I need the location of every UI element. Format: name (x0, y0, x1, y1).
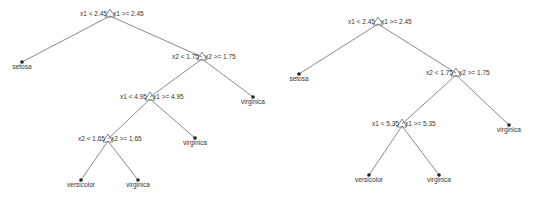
tree-edge (456, 75, 509, 125)
tree-edge (110, 16, 202, 57)
split-left-label: x2 < 1.75 (172, 53, 199, 60)
tree-edge (402, 126, 439, 175)
split-node: x1 < 4.95x1 >= 4.95 (120, 92, 184, 100)
tree-edge (369, 126, 402, 175)
tree-edge (108, 141, 138, 180)
tree-edge (108, 99, 150, 139)
tree-edge (81, 141, 108, 180)
split-node: x2 < 1.75x2 >= 1.75 (426, 68, 490, 76)
leaf-label: virginica (126, 181, 150, 189)
tree-edge (202, 59, 253, 97)
split-right-label: x1 >= 4.95 (153, 93, 184, 100)
tree-edge (378, 24, 456, 73)
leaf-node: versicolor (355, 173, 384, 183)
split-right-label: x2 >= 1.75 (459, 69, 490, 76)
right-tree-edges (299, 24, 509, 175)
tree-nodes: x1 < 2.45x1 >= 2.45setosax2 < 1.75x2 >= … (12, 9, 521, 189)
split-node: x1 < 5.35x1 >= 5.35 (372, 119, 436, 127)
split-node: x2 < 1.65x2 >= 1.65 (78, 134, 142, 142)
leaf-label: setosa (289, 75, 309, 82)
leaf-label: virginica (183, 139, 207, 147)
split-left-label: x2 < 1.75 (426, 69, 453, 76)
split-right-label: x2 >= 1.75 (205, 53, 236, 60)
leaf-node: virginica (497, 123, 521, 134)
leaf-node: setosa (289, 72, 309, 82)
split-left-label: x1 < 2.45 (348, 18, 375, 25)
tree-edges (22, 16, 509, 180)
leaf-label: versicolor (67, 181, 96, 188)
tree-edge (299, 24, 378, 74)
tree-edge (150, 59, 202, 97)
split-left-label: x1 < 4.95 (120, 93, 147, 100)
split-node: x2 < 1.75x2 >= 1.75 (172, 52, 236, 60)
leaf-label: virginica (241, 98, 265, 106)
leaf-node: virginica (183, 136, 207, 147)
split-node: x1 < 2.45x1 >= 2.45 (80, 9, 144, 17)
leaf-label: versicolor (355, 176, 384, 183)
split-left-label: x1 < 2.45 (80, 10, 107, 17)
split-right-label: x2 >= 1.65 (111, 135, 142, 142)
leaf-node: versicolor (67, 178, 96, 188)
decision-tree-canvas: x1 < 2.45x1 >= 2.45setosax2 < 1.75x2 >= … (0, 0, 535, 200)
split-left-label: x2 < 1.65 (78, 135, 105, 142)
tree-edge (22, 16, 110, 62)
leaf-label: setosa (12, 63, 32, 70)
leaf-node: virginica (126, 178, 150, 189)
split-right-label: x1 >= 2.45 (381, 18, 412, 25)
split-right-label: x1 >= 5.35 (405, 120, 436, 127)
leaf-label: virginica (497, 126, 521, 134)
split-node: x1 < 2.45x1 >= 2.45 (348, 17, 412, 25)
split-right-label: x1 >= 2.45 (113, 10, 144, 17)
leaf-node: virginica (241, 95, 265, 106)
split-left-label: x1 < 5.35 (372, 120, 399, 127)
tree-edge (150, 99, 195, 138)
leaf-node: virginica (427, 173, 451, 184)
leaf-node: setosa (12, 60, 32, 70)
tree-edge (402, 75, 456, 124)
leaf-label: virginica (427, 176, 451, 184)
